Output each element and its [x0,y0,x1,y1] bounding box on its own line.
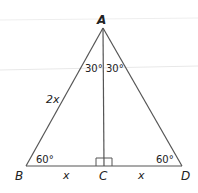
angle-adc-label: 60° [156,154,174,165]
side-ab-label: 2x [46,93,60,106]
vertex-a-label: A [96,13,106,27]
side-bc-label: x [62,169,70,182]
side-cd-label: x [137,169,145,182]
altitude-ac [103,28,104,166]
angle-abc-label: 60° [36,154,54,165]
side-ab [26,28,103,166]
angle-cad-label: 30° [106,63,124,74]
angle-bac-label: 30° [85,63,103,74]
vertex-b-label: B [15,169,23,183]
vertex-d-label: D [181,169,190,183]
vertex-c-label: C [99,169,108,183]
side-ad [103,28,182,166]
triangle-diagram: A B C D 2x x x 30° 30° 60° 60° [0,0,198,193]
